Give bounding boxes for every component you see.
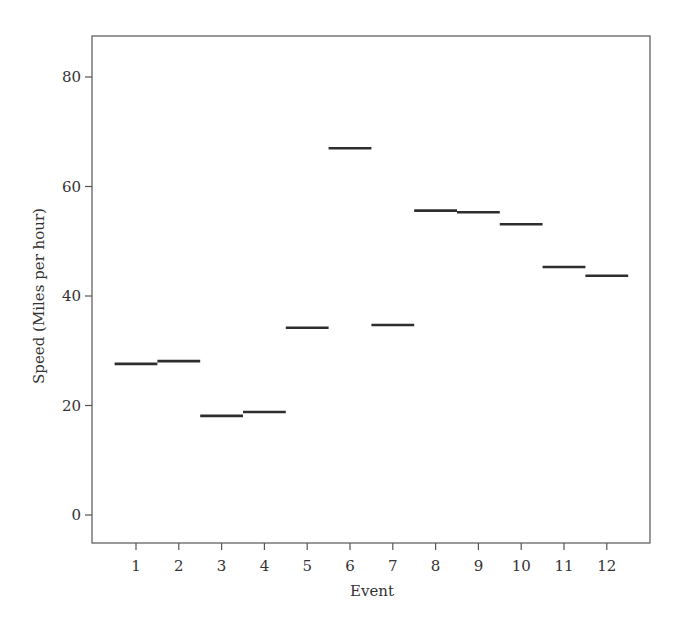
x-axis-title: Event bbox=[350, 582, 394, 600]
y-tick-label: 20 bbox=[62, 397, 81, 415]
x-tick-label: 1 bbox=[131, 557, 141, 575]
x-tick-label: 8 bbox=[431, 557, 441, 575]
x-tick-label: 12 bbox=[597, 557, 616, 575]
x-tick-label: 3 bbox=[217, 557, 227, 575]
x-tick-label: 5 bbox=[302, 557, 312, 575]
y-tick-label: 60 bbox=[62, 178, 81, 196]
chart-svg: 020406080 123456789101112 Event Speed (M… bbox=[0, 0, 686, 618]
x-tick-label: 11 bbox=[554, 557, 573, 575]
x-tick-label: 9 bbox=[474, 557, 484, 575]
y-axis-ticks: 020406080 bbox=[62, 68, 92, 524]
y-tick-label: 80 bbox=[62, 68, 81, 86]
x-tick-label: 6 bbox=[345, 557, 355, 575]
y-tick-label: 0 bbox=[71, 506, 81, 524]
x-tick-label: 2 bbox=[174, 557, 184, 575]
x-tick-label: 4 bbox=[260, 557, 270, 575]
x-tick-label: 10 bbox=[512, 557, 531, 575]
x-axis-ticks: 123456789101112 bbox=[131, 543, 616, 575]
y-tick-label: 40 bbox=[62, 287, 81, 305]
speed-by-event-chart: 020406080 123456789101112 Event Speed (M… bbox=[0, 0, 686, 618]
data-segments bbox=[115, 148, 629, 416]
plot-frame bbox=[92, 36, 650, 543]
x-tick-label: 7 bbox=[388, 557, 398, 575]
y-axis-title: Speed (Miles per hour) bbox=[30, 208, 48, 384]
